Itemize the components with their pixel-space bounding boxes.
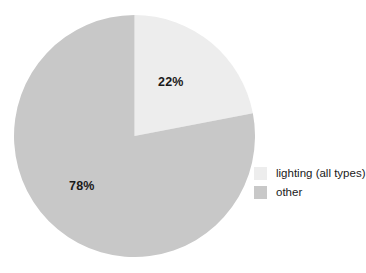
legend-swatch-lighting-icon <box>254 167 267 180</box>
legend-swatch-other-icon <box>254 186 267 199</box>
pie-chart-figure: 22% 78% lighting (all types) other <box>0 0 366 273</box>
legend-label-lighting: lighting (all types) <box>276 167 365 180</box>
pie-slice-value-lighting: 22% <box>158 75 184 89</box>
legend-item-lighting: lighting (all types) <box>254 166 365 180</box>
pie-slice-value-other: 78% <box>69 179 95 193</box>
legend-label-other: other <box>276 186 302 199</box>
legend-item-other: other <box>254 185 365 199</box>
chart-legend: lighting (all types) other <box>254 166 365 199</box>
pie-chart-svg <box>14 15 255 257</box>
pie-chart-plot-area <box>14 15 255 257</box>
